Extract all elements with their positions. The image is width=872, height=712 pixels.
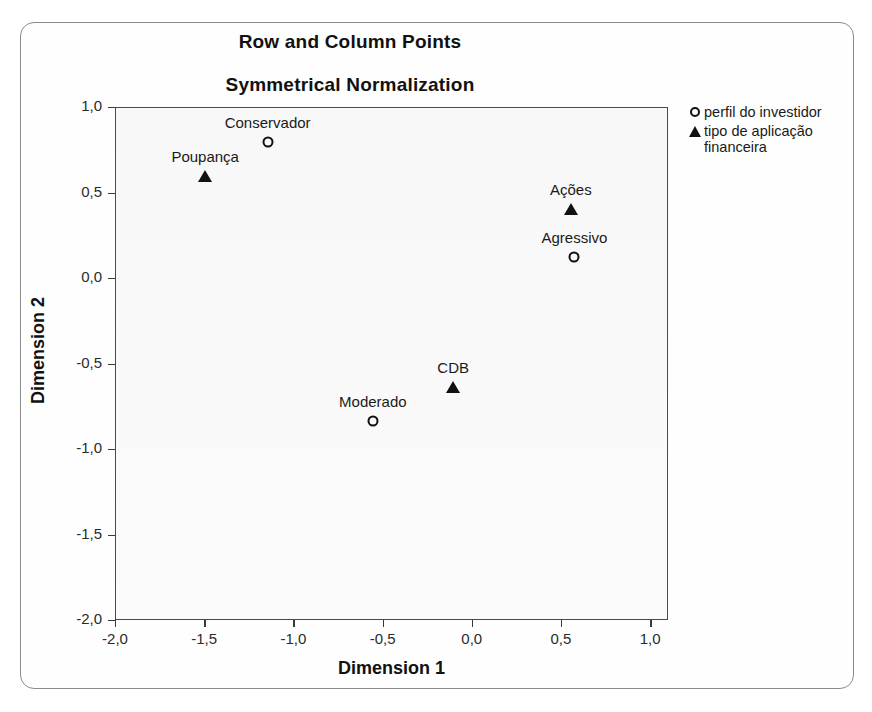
data-point [262,137,273,148]
plot-area: ConservadorAgressivoModeradoPoupançaAçõe… [115,107,668,620]
data-point [569,251,580,262]
y-tick-mark [108,193,115,194]
circle-marker-icon [569,251,580,262]
y-tick-mark [108,449,115,450]
legend-label: perfil do investidor [704,104,822,120]
x-tick-mark [204,620,205,627]
x-tick-label: -0,5 [348,630,418,647]
chart-figure: Row and Column Points Symmetrical Normal… [0,0,872,712]
triangle-marker-icon [446,381,460,393]
chart-title: Row and Column Points [0,31,700,53]
circle-marker-icon [262,137,273,148]
x-tick-label: -1,0 [258,630,328,647]
y-axis-title: Dimension 2 [28,251,49,451]
y-tick-mark [108,620,115,621]
x-axis-title: Dimension 1 [115,658,668,679]
y-tick-label: 0,5 [42,183,102,200]
y-tick-mark [108,535,115,536]
legend-item: tipo de aplicação financeira [686,123,864,155]
y-tick-label: -0,5 [42,354,102,371]
y-tick-label: -2,0 [42,610,102,627]
y-tick-label: -1,5 [42,525,102,542]
legend-item: perfil do investidor [686,104,864,120]
y-tick-mark [108,278,115,279]
legend-marker [686,104,704,117]
triangle-marker-icon [564,203,578,215]
data-point-label: Poupança [171,148,239,165]
data-point-label: Moderado [339,393,407,410]
x-tick-mark [561,620,562,627]
y-tick-mark [108,107,115,108]
chart-legend: perfil do investidortipo de aplicação fi… [686,104,864,158]
y-tick-mark [108,364,115,365]
y-tick-label: -1,0 [42,439,102,456]
x-tick-mark [650,620,651,627]
data-point [367,415,378,426]
data-point-label: Conservador [225,114,311,131]
data-point-label: Agressivo [542,229,608,246]
x-tick-label: 0,0 [437,630,507,647]
triangle-marker-icon [689,126,701,137]
data-point [198,170,212,182]
legend-label: tipo de aplicação financeira [704,123,864,155]
data-point-label: Ações [550,181,592,198]
x-tick-label: 1,0 [615,630,685,647]
y-tick-label: 0,0 [42,268,102,285]
triangle-marker-icon [198,170,212,182]
y-axis-ticks: 1,00,50,0-0,5-1,0-1,5-2,0 [40,0,102,712]
y-tick-label: 1,0 [42,97,102,114]
data-point-label: CDB [437,359,469,376]
x-tick-mark [115,620,116,627]
x-tick-label: 0,5 [526,630,596,647]
circle-marker-icon [690,107,700,117]
x-tick-label: -1,5 [169,630,239,647]
x-tick-mark [293,620,294,627]
legend-marker [686,123,704,137]
data-point [564,203,578,215]
data-point [446,381,460,393]
circle-marker-icon [367,415,378,426]
x-tick-mark [472,620,473,627]
chart-subtitle: Symmetrical Normalization [0,74,700,96]
x-tick-mark [383,620,384,627]
